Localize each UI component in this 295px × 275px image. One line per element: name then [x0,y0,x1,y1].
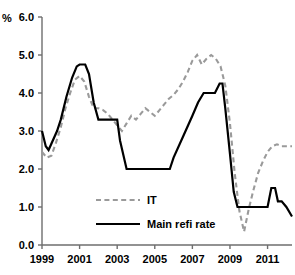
y-tick-label-4.0: 4.0 [0,87,34,99]
y-tick-label-0.0: 0.0 [0,239,34,251]
y-tick-label-1.0: 1.0 [0,201,34,213]
chart-legend-lines [96,200,140,224]
y-tick-label-3.0: 3.0 [0,125,34,137]
chart-plot-area [0,0,295,275]
y-tick-label-5.0: 5.0 [0,49,34,61]
y-tick-label-2.0: 2.0 [0,163,34,175]
chart-series [42,55,292,232]
series-line-main-refi-rate [42,65,292,217]
legend-label-it: IT [147,194,157,206]
y-tick-label-6.0: 6.0 [0,11,34,23]
series-line-it [42,55,292,232]
chart-axes [38,17,292,249]
legend-label-main-refi-rate: Main refi rate [147,218,215,230]
interest-rate-line-chart: % 0.01.02.03.04.05.06.0 1999200120032005… [0,0,295,275]
x-tick-label-2011: 2011 [246,253,290,265]
